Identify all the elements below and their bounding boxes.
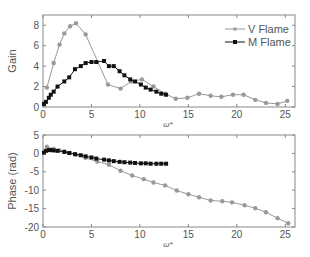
- data-point: [151, 180, 155, 184]
- data-point: [94, 157, 98, 161]
- y-tick-label: 4: [33, 61, 39, 72]
- data-point: [130, 173, 134, 177]
- data-point: [107, 158, 111, 162]
- data-point: [67, 151, 71, 155]
- data-point: [68, 24, 72, 28]
- series-line: [44, 61, 166, 104]
- data-point: [118, 86, 122, 90]
- data-point: [159, 162, 163, 166]
- data-point: [73, 152, 77, 156]
- y-tick-label: -10: [25, 185, 40, 196]
- legend-label-v-flame: V Flame: [248, 23, 289, 35]
- data-point: [231, 93, 235, 97]
- data-point: [149, 88, 153, 92]
- data-point: [142, 177, 146, 181]
- data-point: [106, 82, 110, 86]
- legend-item-v-flame: V Flame: [225, 23, 289, 35]
- figure: 051015202502468 Gain ω* V Flame M Flame …: [0, 0, 310, 257]
- data-point: [89, 60, 93, 64]
- data-point: [186, 192, 190, 196]
- data-point: [107, 64, 111, 68]
- data-point: [264, 101, 268, 105]
- data-point: [253, 206, 257, 210]
- data-point: [62, 79, 66, 83]
- data-point: [84, 154, 88, 158]
- y-tick-label: 6: [33, 40, 39, 51]
- gain-plot: 051015202502468 Gain ω* V Flame M Flame: [6, 15, 295, 129]
- data-point: [118, 69, 122, 73]
- data-point: [208, 198, 212, 202]
- x-tick-label: 5: [89, 109, 95, 120]
- data-point: [285, 99, 289, 103]
- data-point: [253, 98, 257, 102]
- gain-y-axis-label: Gain: [6, 49, 18, 72]
- data-point: [62, 31, 66, 35]
- data-point: [74, 21, 78, 25]
- data-point: [159, 92, 163, 96]
- data-point: [242, 203, 246, 207]
- data-point: [230, 200, 234, 204]
- data-point: [133, 79, 137, 83]
- data-point: [102, 158, 106, 162]
- phase-x-axis-label: ω*: [163, 240, 173, 249]
- data-point: [175, 188, 179, 192]
- data-point: [122, 160, 126, 164]
- x-tick-label: 20: [231, 229, 243, 240]
- data-point: [79, 153, 83, 157]
- data-point: [73, 67, 77, 71]
- data-point: [83, 32, 87, 36]
- data-point: [197, 92, 201, 96]
- y-tick-label: -20: [25, 222, 40, 233]
- data-point: [164, 93, 168, 97]
- data-point: [140, 77, 144, 81]
- data-point: [45, 85, 49, 89]
- data-point: [154, 90, 158, 94]
- data-point: [241, 93, 245, 97]
- data-point: [220, 199, 224, 203]
- phase-series: [42, 145, 290, 226]
- data-point: [118, 160, 122, 164]
- data-point: [208, 94, 212, 98]
- data-point: [174, 97, 178, 101]
- x-tick-label: 0: [40, 109, 46, 120]
- data-point: [52, 90, 56, 94]
- data-point: [154, 162, 158, 166]
- data-point: [102, 59, 106, 63]
- data-point: [197, 195, 201, 199]
- x-tick-label: 25: [280, 109, 292, 120]
- data-point: [139, 83, 143, 87]
- x-tick-label: 15: [183, 229, 195, 240]
- y-tick-label: 8: [33, 20, 39, 31]
- legend: V Flame M Flame: [225, 23, 291, 48]
- data-point: [89, 155, 93, 159]
- phase-axis-ticks: 051015202550-5-10-15-20: [25, 130, 295, 241]
- x-tick-label: 0: [40, 229, 46, 240]
- data-point: [122, 73, 126, 77]
- data-point: [56, 85, 60, 89]
- y-tick-label: -15: [25, 203, 40, 214]
- data-point: [286, 221, 290, 225]
- data-point: [84, 61, 88, 65]
- x-tick-label: 20: [231, 109, 243, 120]
- phase-plot-frame: [43, 135, 295, 227]
- data-point: [144, 86, 148, 90]
- data-point: [112, 159, 116, 163]
- data-point: [62, 150, 66, 154]
- data-point: [275, 102, 279, 106]
- data-point: [57, 42, 61, 46]
- data-point: [51, 61, 55, 65]
- data-point: [112, 64, 116, 68]
- data-point: [118, 168, 122, 172]
- series-line: [47, 147, 288, 224]
- y-tick-label: 0: [33, 148, 39, 159]
- data-point: [52, 148, 56, 152]
- legend-label-m-flame: M Flame: [248, 36, 291, 48]
- x-tick-label: 25: [280, 229, 292, 240]
- data-point: [185, 96, 189, 100]
- x-tick-label: 10: [134, 109, 146, 120]
- data-point: [275, 216, 279, 220]
- data-point: [107, 163, 111, 167]
- legend-item-m-flame: M Flame: [225, 36, 291, 48]
- data-point: [79, 64, 83, 68]
- phase-y-axis-label: Phase (rad): [6, 152, 18, 209]
